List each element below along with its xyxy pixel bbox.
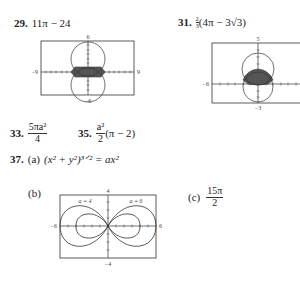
svg-text:6: 6: [159, 223, 162, 229]
svg-text:9: 9: [137, 69, 140, 75]
svg-text:6: 6: [87, 34, 90, 40]
polar-plot-29: 6 −6 −9 9: [28, 32, 143, 108]
part-b-label: (b): [28, 187, 41, 199]
answer-number: 29.: [14, 17, 28, 29]
part-a-expression: (x² + y²)³ᐟ² = ax²: [44, 153, 119, 165]
answer-fraction: 5πa² 4: [28, 122, 48, 144]
part-c-label: (c): [188, 191, 200, 203]
answer-number: 35.: [78, 127, 92, 139]
svg-text:4: 4: [107, 188, 110, 194]
answer-expression: (π − 2): [105, 127, 135, 139]
answer-number: 33.: [10, 127, 24, 139]
answer-31: 31. 2 3 (4π − 3√3): [178, 12, 246, 30]
part-c: (c) 15π 2: [188, 186, 223, 208]
svg-text:−3: −3: [255, 105, 261, 111]
svg-text:−4: −4: [105, 261, 111, 267]
answer-fraction: a² 2: [96, 122, 105, 144]
answer-number: 31.: [178, 16, 192, 28]
polar-plot-31: 5 −3 −6: [198, 32, 300, 112]
answer-expression: (4π − 3√3): [199, 16, 246, 28]
svg-text:5: 5: [257, 36, 260, 42]
legend-a6: a = 6: [129, 198, 142, 204]
answer-33: 33. 5πa² 4: [10, 122, 47, 144]
answer-29: 29. 11π − 24: [14, 13, 71, 31]
svg-text:−6: −6: [51, 223, 57, 229]
answer-37: 37. (a) (x² + y²)³ᐟ² = ax²: [10, 149, 119, 167]
svg-text:−9: −9: [32, 69, 38, 75]
part-c-fraction: 15π 2: [206, 186, 223, 208]
svg-text:−6: −6: [85, 98, 91, 104]
answer-number: 37.: [10, 153, 24, 165]
part-a-label: (a): [28, 153, 40, 165]
polar-plot-37b: 4 −4 −6 6 a = 4 a = 6: [48, 186, 168, 270]
answer-35: 35. a² 2 (π − 2): [78, 122, 135, 144]
svg-text:−6: −6: [203, 81, 209, 87]
answer-expression: 11π − 24: [32, 17, 71, 29]
legend-a4: a = 4: [78, 198, 91, 204]
